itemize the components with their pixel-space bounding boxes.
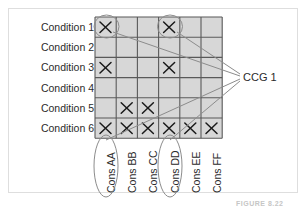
matrix-cell[interactable] <box>180 57 201 77</box>
matrix-cell[interactable] <box>116 37 137 57</box>
matrix-cell[interactable] <box>180 98 201 118</box>
ccg-group-label: CCG 1 <box>243 71 277 83</box>
matrix-cell[interactable] <box>137 57 158 77</box>
matrix-cell[interactable] <box>180 78 201 98</box>
matrix-cell[interactable] <box>95 37 116 57</box>
matrix-cell[interactable] <box>137 78 158 98</box>
matrix-cell[interactable] <box>116 78 137 98</box>
matrix-cell[interactable] <box>159 78 180 98</box>
matrix-cell[interactable] <box>137 37 158 57</box>
highlight-ellipse-column-dd <box>158 135 182 197</box>
figure-container: Condition 1 Condition 2 Condition 3 Cond… <box>0 0 308 211</box>
matrix-cell[interactable] <box>137 17 158 37</box>
matrix-cell[interactable] <box>201 98 222 118</box>
matrix-diagram <box>0 0 308 211</box>
highlight-ellipse-column-aa <box>94 135 118 197</box>
matrix-cell[interactable] <box>201 37 222 57</box>
matrix-cell[interactable] <box>116 57 137 77</box>
matrix-cell[interactable] <box>201 17 222 37</box>
matrix-cell[interactable] <box>95 98 116 118</box>
column-highlight-ellipses <box>94 135 182 197</box>
figure-caption: FIGURE 8.22 <box>236 200 284 207</box>
matrix-cell[interactable] <box>180 37 201 57</box>
matrix-cell[interactable] <box>95 78 116 98</box>
